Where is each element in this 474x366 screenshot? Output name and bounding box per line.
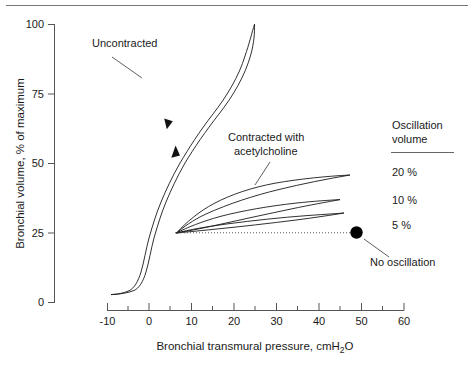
annotation-no-oscillation: No oscillation xyxy=(364,239,435,268)
annotation-uncontracted-label: Uncontracted xyxy=(92,37,157,49)
x-ticklabel-20: 20 xyxy=(228,315,240,327)
y-ticklabel-0: 0 xyxy=(38,296,44,308)
x-ticklabel-40: 40 xyxy=(313,315,325,327)
annotation-contracted-acetylcholine: Contracted with acetylcholine xyxy=(228,131,304,185)
x-axis-title-post: O xyxy=(345,340,354,352)
y-axis-title: Bronchial volume, % of maximum xyxy=(14,78,26,249)
y-ticklabel-25: 25 xyxy=(32,227,44,239)
uncontracted-deflation-arrow-down xyxy=(164,119,173,130)
no-oscillation-marker xyxy=(350,226,362,238)
x-axis: -10 0 10 20 30 40 50 60 Bronchial transm… xyxy=(100,303,411,355)
legend-title-line1: Oscillation xyxy=(392,119,443,131)
x-ticklabel-30: 30 xyxy=(270,315,282,327)
annotation-no-oscillation-leader xyxy=(364,239,389,257)
legend-title-line2: volume xyxy=(392,133,427,145)
x-ticklabel-0: 0 xyxy=(146,315,152,327)
legend-entry-10pct: 10 % xyxy=(392,194,417,206)
x-ticklabel-10: 10 xyxy=(185,315,197,327)
annotation-contracted-leader xyxy=(255,162,270,185)
x-ticklabel-60: 60 xyxy=(398,315,410,327)
x-ticklabel-50: 50 xyxy=(355,315,367,327)
legend-entry-5pct: 5 % xyxy=(392,219,411,231)
legend-entry-20pct: 20 % xyxy=(392,166,417,178)
annotation-no-oscillation-label: No oscillation xyxy=(370,256,435,268)
annotation-uncontracted: Uncontracted xyxy=(92,37,157,78)
series-uncontracted xyxy=(111,24,255,294)
annotation-contracted-label-line2: acetylcholine xyxy=(234,145,298,157)
annotation-uncontracted-leader xyxy=(112,57,142,78)
x-axis-title: Bronchial transmural pressure, cmH2O xyxy=(156,340,353,355)
chart-svg: 100 75 50 25 0 Bronchial volume, % of ma… xyxy=(0,0,474,366)
y-ticklabel-100: 100 xyxy=(26,18,44,30)
uncontracted-inflation-limb xyxy=(111,24,255,294)
uncontracted-inflation-arrow-up xyxy=(171,146,180,158)
y-ticklabel-50: 50 xyxy=(32,157,44,169)
y-axis: 100 75 50 25 0 Bronchial volume, % of ma… xyxy=(14,18,55,308)
annotation-contracted-label-line1: Contracted with xyxy=(228,131,304,143)
y-ticklabel-75: 75 xyxy=(32,88,44,100)
x-ticklabel--10: -10 xyxy=(100,315,116,327)
legend: Oscillation volume 20 % 10 % 5 % xyxy=(391,119,454,231)
uncontracted-deflation-limb xyxy=(111,24,255,294)
figure-container: 100 75 50 25 0 Bronchial volume, % of ma… xyxy=(0,0,474,366)
x-axis-title-pre: Bronchial transmural pressure, cmH xyxy=(156,340,339,352)
